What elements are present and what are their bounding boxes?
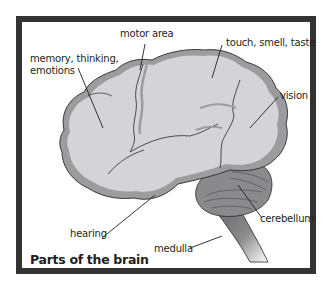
label-medulla: medulla [154, 243, 193, 255]
label-hearing: hearing [70, 228, 107, 240]
label-touch-smell-taste: touch, smell, taste [226, 37, 315, 49]
label-motor-area: motor area [120, 28, 174, 40]
label-vision: vision [280, 90, 308, 102]
diagram-title: Parts of the brain [30, 252, 149, 267]
label-emotions: emotions [30, 65, 75, 77]
label-cerebellum: cerebellum [260, 213, 314, 225]
label-memory: memory, thinking, [30, 53, 119, 65]
